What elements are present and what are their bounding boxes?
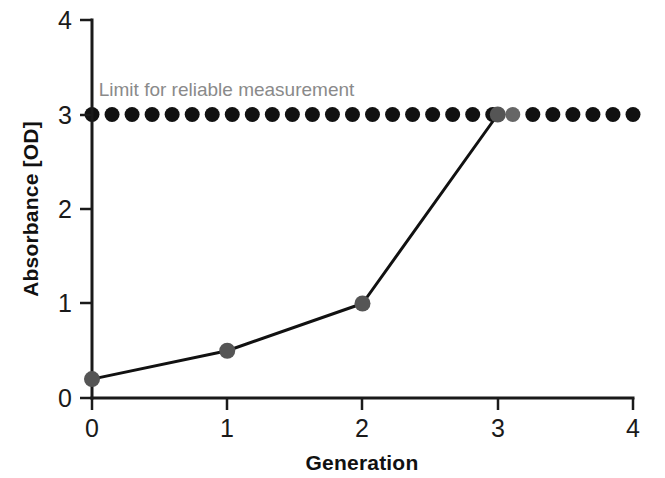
limit-dot (265, 107, 280, 122)
limit-dot (105, 107, 120, 122)
limit-dot (385, 107, 400, 122)
x-tick-label-1: 1 (220, 414, 234, 442)
limit-dot (245, 107, 260, 122)
y-tick-label-1: 1 (58, 289, 72, 317)
limit-dot (345, 107, 360, 122)
y-tick-label-3: 3 (58, 101, 72, 129)
limit-dot (325, 107, 340, 122)
y-tick-label-0: 0 (58, 384, 72, 412)
y-axis-title: Absorbance [OD] (19, 121, 42, 297)
limit-dot (585, 107, 600, 122)
limit-dot (425, 107, 440, 122)
y-tick-label-4: 4 (58, 6, 72, 34)
limit-dot (405, 107, 420, 122)
data-point-marker (84, 371, 100, 387)
limit-dot (605, 107, 620, 122)
limit-dot (626, 107, 641, 122)
data-point-marker (355, 296, 371, 312)
limit-dot (445, 107, 460, 122)
limit-dot (545, 107, 560, 122)
y-tick-label-2: 2 (58, 195, 72, 223)
limit-dot (505, 107, 520, 122)
limit-dot (525, 107, 540, 122)
chart-canvas: Limit for reliable measurement 4 3 2 1 0 (0, 0, 665, 478)
data-point-marker (490, 107, 506, 123)
chart-background (0, 0, 665, 478)
limit-dot (305, 107, 320, 122)
limit-dot (365, 107, 380, 122)
limit-dot (145, 107, 160, 122)
x-tick-label-3: 3 (491, 414, 505, 442)
limit-dot (225, 107, 240, 122)
limit-dot (565, 107, 580, 122)
x-tick-label-2: 2 (355, 414, 369, 442)
x-axis-title: Generation (306, 451, 419, 474)
limit-dot (165, 107, 180, 122)
limit-dot (125, 107, 140, 122)
limit-dot (465, 107, 480, 122)
limit-dot (205, 107, 220, 122)
limit-dot (185, 107, 200, 122)
x-tick-label-0: 0 (85, 414, 99, 442)
x-tick-label-4: 4 (626, 414, 640, 442)
data-point-marker (219, 343, 235, 359)
limit-annotation-label: Limit for reliable measurement (99, 79, 355, 100)
limit-dot (285, 107, 300, 122)
